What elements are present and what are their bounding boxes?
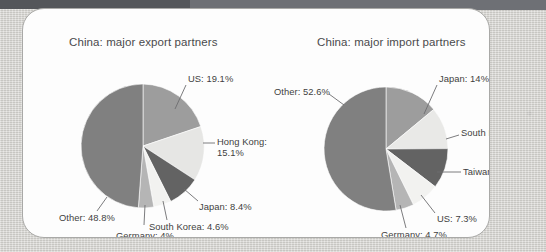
import-label-other: Other: 52.6% [274,86,330,98]
charts-panel: China: major export partners [22,8,490,238]
import-label-japan: Japan: 14% [439,73,489,85]
slice-other [324,87,396,211]
leader-us [421,195,435,213]
import-pie-chart [23,9,490,238]
import-pie-slices [324,87,448,211]
leader-other [329,94,344,105]
import-label-germany: Germany: 4.7% [381,229,447,238]
import-label-us: US: 7.3% [437,213,477,225]
import-label-taiwan: Taiwan: 10.5% [463,166,490,178]
leader-south-korea [446,135,459,139]
import-label-south-korea: South Korea: 10.9% [461,127,490,139]
